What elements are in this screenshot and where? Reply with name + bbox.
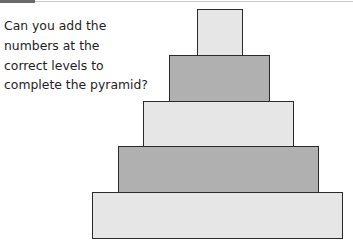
pyramid-level-3[interactable]	[143, 101, 294, 148]
pyramid-level-5-base[interactable]	[92, 192, 343, 239]
pyramid-level-2[interactable]	[169, 55, 270, 103]
pyramid	[0, 0, 353, 240]
pyramid-level-4[interactable]	[118, 146, 319, 193]
pyramid-level-1-top[interactable]	[197, 9, 243, 57]
